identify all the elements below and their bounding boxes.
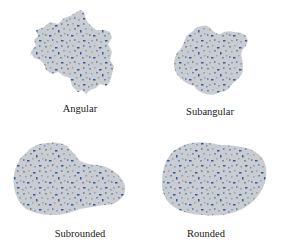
- angular-particle-shape: [0, 0, 140, 110]
- panel-subangular: Subangular: [140, 0, 281, 125]
- panel-rounded: Rounded: [140, 125, 281, 251]
- label-rounded: Rounded: [156, 228, 256, 239]
- label-subrounded: Subrounded: [30, 228, 130, 239]
- panel-subrounded: Subrounded: [0, 125, 140, 251]
- subangular-particle-shape: [140, 0, 281, 110]
- label-angular: Angular: [30, 103, 130, 114]
- label-subangular: Subangular: [160, 106, 260, 117]
- panel-angular: Angular: [0, 0, 140, 125]
- subrounded-particle-shape: [0, 125, 140, 230]
- rounded-particle-shape: [140, 125, 281, 230]
